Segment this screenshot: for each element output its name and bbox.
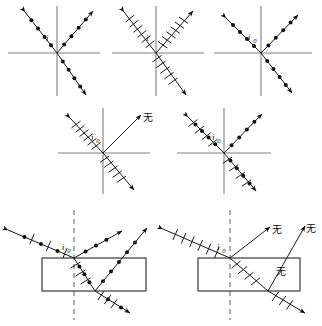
panel-7-none-label-reflected: 无	[272, 224, 282, 235]
panel-5-angle-subscript: 0	[217, 137, 221, 144]
panel-2-incident-ray	[124, 12, 156, 53]
panel-1-refracted-ray	[57, 53, 86, 95]
panel-6-reflected-ray	[74, 231, 122, 258]
panel-2-angle-label: i	[146, 33, 149, 43]
panel-6-angle-subscript: 0	[67, 247, 71, 254]
panel-5-refracted-ticks	[223, 157, 251, 186]
panel-7-transmitted-ticks	[272, 292, 293, 310]
panel-1-top-left: i	[8, 6, 100, 96]
figure-canvas: i i	[0, 0, 322, 326]
panel-4-refracted-ticks	[100, 156, 126, 182]
panel-7-refracted-ticks	[232, 261, 261, 285]
panel-7-incident-ray	[163, 229, 230, 258]
panel-3-incident-ray	[226, 18, 261, 53]
panel-4-reflected-ray	[103, 115, 141, 153]
panel-6-transmitted-ticks	[98, 291, 117, 308]
panel-7-angle-label: i	[217, 242, 220, 252]
panel-7-transmitted-ray	[268, 291, 305, 313]
panel-5-angle-label: i	[212, 132, 215, 142]
panel-6-glass-slab	[42, 258, 146, 291]
panel-6-bottom-left: i 0	[8, 210, 147, 320]
panel-5-middle-right: i 0	[177, 108, 271, 194]
optics-diagram-svg: i i	[0, 0, 322, 326]
panel-3-top-right: i 0	[214, 6, 312, 96]
panel-4-middle-left: i 0 无	[58, 108, 153, 194]
panel-6-incident-dots	[23, 235, 60, 253]
panel-7-bottom-right: i 0 无 无 无	[163, 210, 316, 320]
panel-3-reflected-ray	[261, 15, 298, 53]
panel-7-reflected-ray	[230, 227, 270, 258]
panel-1-reflected-ray	[57, 11, 93, 53]
panel-6-angle-label: i	[62, 242, 65, 252]
panel-7-refracted-ray-in-slab	[230, 258, 268, 291]
panel-4-refracted-ray	[103, 153, 134, 190]
panel-3-angle-label: i	[248, 32, 251, 42]
panel-4-angle-subscript: 0	[96, 137, 100, 144]
panel-6-transmitted-ray	[95, 291, 130, 313]
panel-2-top-middle: i	[112, 6, 204, 96]
panel-4-incident-ray	[70, 118, 103, 153]
panel-4-none-label: 无	[143, 112, 153, 123]
panel-7-none-label-internal: 无	[276, 266, 286, 277]
panel-3-refracted-ray	[261, 53, 292, 93]
panel-3-angle-subscript: 0	[253, 37, 257, 44]
panel-6-reflected-dots	[84, 238, 109, 254]
panel-5-reflected-ray	[224, 114, 262, 153]
panel-7-angle-subscript: 0	[222, 247, 226, 254]
panel-7-none-label-exit: 无	[306, 223, 316, 234]
panel-2-reflected-ray	[156, 11, 193, 53]
